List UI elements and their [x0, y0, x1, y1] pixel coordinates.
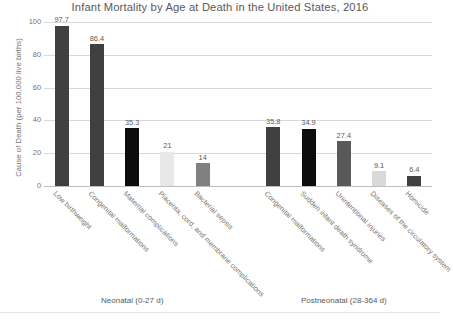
- bar[interactable]: [302, 129, 316, 186]
- bar-slot: 14: [185, 22, 220, 186]
- bar-slot: 6.4: [397, 22, 432, 186]
- bar-value-label: 6.4: [409, 166, 419, 173]
- bar-value-label: 14: [199, 154, 207, 161]
- bar[interactable]: [125, 128, 139, 186]
- y-tick-label: 40: [11, 116, 41, 123]
- bottom-divider: [0, 312, 440, 313]
- bar[interactable]: [372, 171, 386, 186]
- bar-value-label: 86.4: [90, 35, 104, 42]
- bar-value-label: 27.4: [337, 132, 351, 139]
- x-axis-group-labels: Neonatal (0-27 d)Postneonatal (28-364 d): [44, 296, 432, 312]
- bar-value-label: 97.7: [54, 16, 68, 23]
- bar[interactable]: [55, 26, 69, 186]
- bar-slot: 9.1: [361, 22, 396, 186]
- y-tick-label: 20: [11, 149, 41, 156]
- bar-value-label: 35.3: [125, 119, 139, 126]
- group-label: Neonatal (0-27 d): [101, 296, 163, 305]
- bar-slot: 86.4: [79, 22, 114, 186]
- category-label: Homicide: [404, 189, 432, 217]
- bar[interactable]: [266, 127, 280, 186]
- bar[interactable]: [196, 163, 210, 186]
- bar[interactable]: [90, 44, 104, 186]
- bar-slot: 34.9: [291, 22, 326, 186]
- group-label: Postneonatal (28-364 d): [301, 296, 387, 305]
- category-label: Congenital malformations: [87, 189, 152, 254]
- plot-area: 97.786.435.3211435.834.927.49.16.4: [44, 22, 432, 186]
- bar-slot: 21: [150, 22, 185, 186]
- bar[interactable]: [337, 141, 351, 186]
- category-label: Sudden infant death syndrome: [298, 189, 375, 266]
- bar-value-label: 9.1: [374, 162, 384, 169]
- bar-value-label: 21: [163, 142, 171, 149]
- bar-slot: 27.4: [326, 22, 361, 186]
- y-tick-label: 100: [11, 18, 41, 25]
- chart-title: Infant Mortality by Age at Death in the …: [0, 1, 440, 13]
- bar-value-label: 34.9: [301, 119, 315, 126]
- bar[interactable]: [160, 152, 174, 186]
- y-tick-label: 60: [11, 84, 41, 91]
- bar-slot: 35.8: [256, 22, 291, 186]
- bar-value-label: 35.8: [266, 118, 280, 125]
- bar[interactable]: [407, 176, 421, 186]
- y-tick-label: 80: [11, 51, 41, 58]
- bar-slot: 35.3: [115, 22, 150, 186]
- y-tick-label: 0: [11, 182, 41, 189]
- bar-slot: 97.7: [44, 22, 79, 186]
- category-label: Congenital malformations: [263, 189, 328, 254]
- x-axis-category-labels: Low birthweightCongenital malformationsM…: [44, 186, 432, 291]
- y-axis-ticks: 020406080100: [8, 22, 41, 186]
